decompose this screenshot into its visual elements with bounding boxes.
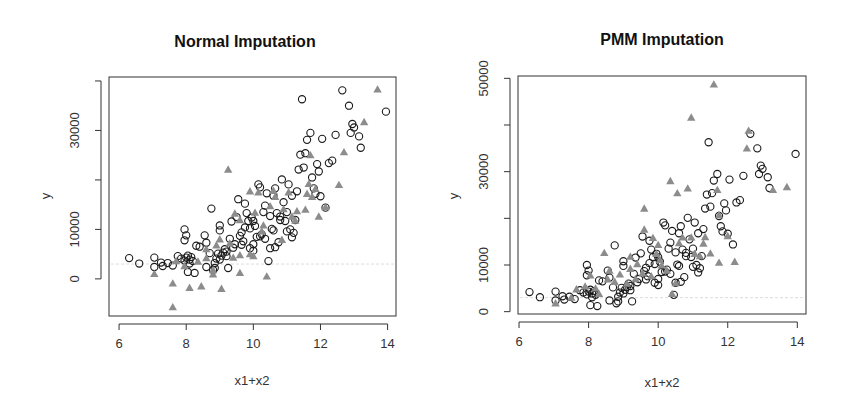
observed-point — [201, 232, 208, 239]
imputed-point — [246, 187, 254, 194]
y-axis-label: y — [38, 192, 53, 199]
observed-point — [270, 227, 277, 234]
observed-point — [606, 297, 613, 304]
pmm-imputation-scatter-plot: PMM Imputation x1+x2 y 68101214 01000030… — [424, 0, 848, 406]
observed-point — [241, 200, 248, 207]
observed-point — [303, 136, 310, 143]
imputed-point — [684, 184, 692, 191]
normal-imputation-panel: Normal Imputation x1+x2 y 68101214 01000… — [0, 0, 424, 406]
observed-point — [587, 302, 594, 309]
observed-point — [235, 196, 242, 203]
observed-point — [263, 190, 270, 197]
observed-point — [357, 144, 364, 151]
x-tick-label: 10 — [651, 334, 665, 349]
x-tick-label: 14 — [790, 334, 804, 349]
imputed-point — [202, 254, 210, 261]
imputed-point — [197, 282, 205, 289]
observed-point — [280, 199, 287, 206]
imputed-point — [687, 233, 695, 240]
imputed-point — [666, 177, 674, 184]
imputed-point — [216, 235, 224, 242]
observed-point — [382, 108, 389, 115]
observed-point — [267, 212, 274, 219]
observed-point — [615, 298, 622, 305]
observed-point — [726, 176, 733, 183]
observed-point — [552, 288, 559, 295]
imputed-point — [269, 187, 277, 194]
observed-point — [285, 181, 292, 188]
chart-title: Normal Imputation — [174, 33, 315, 50]
x-axis-label: x1+x2 — [234, 373, 269, 388]
imputed-point — [600, 249, 608, 256]
observed-point — [307, 129, 314, 136]
observed-point — [740, 172, 747, 179]
imputed-point — [743, 144, 751, 151]
plot-frame — [109, 77, 396, 316]
observed-point — [339, 87, 346, 94]
observed-point — [225, 264, 232, 271]
observed-point — [298, 96, 305, 103]
observed-point — [703, 191, 710, 198]
observed-point — [672, 249, 679, 256]
observed-point — [347, 129, 354, 136]
imputed-point — [311, 185, 319, 192]
imputed-point — [335, 181, 343, 188]
imputed-point — [783, 183, 791, 190]
observed-point — [345, 102, 352, 109]
y-tick-label: 30000 — [67, 112, 82, 148]
observed-point — [684, 214, 691, 221]
observed-point — [319, 135, 326, 142]
observed-point — [705, 139, 712, 146]
observed-point — [722, 207, 729, 214]
imputed-point — [673, 189, 681, 196]
x-tick-label: 12 — [721, 334, 735, 349]
imputed-point — [263, 272, 271, 279]
imputed-point — [217, 285, 225, 292]
y-tick-label: 0 — [67, 275, 82, 282]
imputed-point — [303, 190, 311, 197]
observed-point — [594, 302, 601, 309]
imputed-point — [224, 165, 232, 172]
x-tick-label: 6 — [115, 336, 122, 351]
observed-point — [267, 245, 274, 252]
imputed-point — [640, 204, 648, 211]
y-tick-label: 50000 — [476, 60, 491, 96]
observed-point — [691, 219, 698, 226]
imputed-point — [315, 212, 323, 219]
observed-point — [314, 160, 321, 167]
imputed-point — [236, 269, 244, 276]
observed-point — [628, 298, 635, 305]
imputed-point — [236, 216, 244, 223]
imputed-point — [251, 208, 259, 215]
observed-point — [695, 230, 702, 237]
observed-point — [754, 145, 761, 152]
observed-point — [151, 263, 158, 270]
imputed-point — [713, 186, 721, 193]
y-axis: 0100003000050000 — [476, 60, 510, 315]
y-tick-label: 10000 — [67, 211, 82, 247]
y-tick-label: 10000 — [476, 247, 491, 283]
y-axis-label: y — [446, 192, 461, 199]
imputed-point — [340, 148, 348, 155]
observed-point — [620, 262, 627, 269]
imputed-point — [360, 118, 368, 125]
y-tick-label: 0 — [476, 308, 491, 315]
imputed-point — [278, 236, 286, 243]
observed-point — [191, 269, 198, 276]
observed-point — [677, 223, 684, 230]
imputed-point — [640, 225, 648, 232]
observed-point — [332, 131, 339, 138]
x-tick-label: 8 — [585, 334, 592, 349]
observed-point — [526, 288, 533, 295]
imputed-point — [306, 151, 314, 158]
observed-point — [792, 150, 799, 157]
x-axis: 68101214 — [515, 322, 804, 349]
observed-point — [668, 227, 675, 234]
imputed-point — [172, 257, 180, 264]
x-tick-label: 14 — [380, 336, 394, 351]
imputed-point — [150, 270, 158, 277]
imputed-point — [710, 80, 718, 87]
imputed-point — [699, 239, 707, 246]
normal-imputation-scatter-plot: Normal Imputation x1+x2 y 68101214 01000… — [0, 0, 424, 406]
observed-point — [184, 268, 191, 275]
